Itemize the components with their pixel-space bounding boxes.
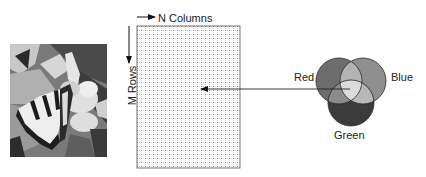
rgb-venn-diagram xyxy=(316,58,386,126)
red-label: Red xyxy=(294,72,314,83)
diagram-canvas xyxy=(0,0,426,177)
rows-label: M Rows xyxy=(127,66,138,106)
pixel-grid xyxy=(137,26,240,168)
green-label: Green xyxy=(334,130,365,141)
blue-label: Blue xyxy=(391,72,413,83)
columns-label: N Columns xyxy=(158,13,212,24)
